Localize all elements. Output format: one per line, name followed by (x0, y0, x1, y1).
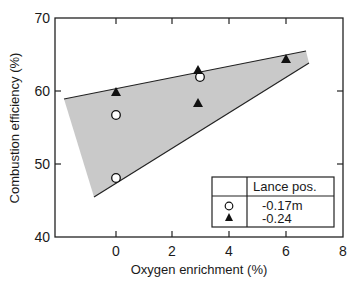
y-axis-label: Combustion efficiency (%) (7, 53, 22, 204)
legend-entry-2: -0.24 (262, 211, 292, 226)
x-tick-label-8: 8 (339, 243, 347, 259)
y-tick-label-40: 40 (34, 229, 50, 245)
legend-header: Lance pos. (253, 179, 317, 194)
y-tick-label-50: 50 (34, 156, 50, 172)
data-point (193, 65, 203, 74)
data-point (112, 174, 121, 183)
data-point (112, 111, 121, 120)
x-tick-label-2: 2 (168, 243, 176, 259)
legend: Lance pos. -0.17m -0.24 (212, 177, 334, 227)
chart-canvas: 0 2 4 6 8 40 50 60 70 Oxygen enrichment … (0, 0, 359, 287)
x-tick-label-6: 6 (282, 243, 290, 259)
x-tick-label-4: 4 (225, 243, 233, 259)
shaded-band (64, 51, 309, 197)
x-axis-label: Oxygen enrichment (%) (131, 262, 268, 277)
legend-open-circle-icon (225, 202, 233, 210)
x-tick-label-0: 0 (112, 243, 120, 259)
y-tick-label-70: 70 (34, 10, 50, 26)
y-tick-label-60: 60 (34, 83, 50, 99)
